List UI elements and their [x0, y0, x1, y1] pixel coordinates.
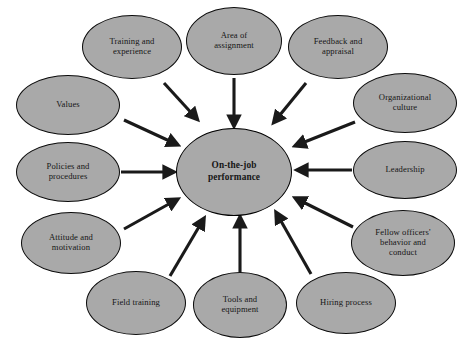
node-line-2: appraisal	[322, 46, 354, 56]
node-line-1: Policies and	[47, 161, 90, 171]
node-label: Values	[52, 100, 84, 110]
center-node-label: On-the-job performance	[204, 160, 264, 183]
node-training-and-experience[interactable]: Training and experience	[82, 15, 182, 79]
node-feedback-and-appraisal[interactable]: Feedback and appraisal	[288, 15, 388, 79]
node-line-2: experience	[113, 46, 151, 56]
node-field-training[interactable]: Field training	[86, 271, 186, 335]
center-node-line-1: On-the-job	[212, 160, 257, 170]
node-label: Feedback and appraisal	[310, 37, 367, 57]
node-line-1: Area of	[221, 30, 248, 40]
node-label: Field training	[108, 298, 164, 308]
node-line-2: assignment	[214, 40, 254, 50]
arrow-organizational-culture-to-center	[297, 122, 355, 145]
node-label: Training and experience	[105, 37, 158, 57]
node-line-1: Tools and	[223, 294, 257, 304]
node-label: Attitude and motivation	[45, 233, 97, 253]
node-line-3: conduct	[389, 247, 417, 257]
node-label: Organizational culture	[375, 93, 435, 113]
node-policies-and-procedures[interactable]: Policies and procedures	[16, 142, 120, 202]
node-label: Hiring process	[316, 298, 376, 308]
node-line-1: Attitude and	[49, 232, 93, 242]
node-label: Tools and equipment	[217, 295, 262, 315]
node-organizational-culture[interactable]: Organizational culture	[353, 73, 457, 133]
node-label: Leadership	[381, 165, 428, 175]
node-line-2: motivation	[52, 242, 90, 252]
arrow-field-training-to-center	[170, 220, 203, 276]
node-line-2: equipment	[221, 304, 258, 314]
node-area-of-assignment[interactable]: Area of assignment	[186, 7, 282, 75]
node-label: Fellow officers' behavior and conduct	[371, 228, 434, 258]
arrow-values-to-center	[124, 120, 176, 144]
arrow-hiring-process-to-center	[277, 214, 311, 274]
node-line-1: Feedback and	[314, 36, 363, 46]
node-line-1: Organizational	[379, 92, 431, 102]
arrow-training-and-experience-to-center	[164, 83, 196, 118]
arrow-attitude-and-motivation-to-center	[124, 200, 176, 229]
node-attitude-and-motivation[interactable]: Attitude and motivation	[21, 212, 121, 274]
node-line-1: Leadership	[385, 164, 424, 174]
node-tools-and-equipment[interactable]: Tools and equipment	[193, 272, 287, 338]
node-line-1: Fellow officers'	[375, 227, 430, 237]
node-line-1: Field training	[112, 297, 160, 307]
node-fellow-officers-behavior-and-conduct[interactable]: Fellow officers' behavior and conduct	[351, 210, 455, 276]
node-label: Area of assignment	[210, 31, 258, 51]
center-node-line-2: performance	[208, 172, 260, 182]
node-line-1: Values	[56, 99, 80, 109]
center-node-on-the-job-performance[interactable]: On-the-job performance	[176, 128, 292, 216]
arrow-fellow-officers-behavior-and-conduct-to-center	[297, 199, 353, 227]
arrow-feedback-and-appraisal-to-center	[275, 83, 306, 121]
influence-diagram: On-the-job performance Training and expe…	[0, 0, 471, 343]
node-leadership[interactable]: Leadership	[353, 141, 457, 199]
node-label: Policies and procedures	[43, 162, 94, 182]
node-hiring-process[interactable]: Hiring process	[296, 272, 396, 334]
node-values[interactable]: Values	[16, 75, 120, 135]
node-line-1: Hiring process	[320, 297, 372, 307]
node-line-2: behavior and	[380, 237, 426, 247]
node-line-1: Training and	[109, 36, 154, 46]
node-line-2: culture	[393, 102, 418, 112]
node-line-2: procedures	[49, 171, 88, 181]
